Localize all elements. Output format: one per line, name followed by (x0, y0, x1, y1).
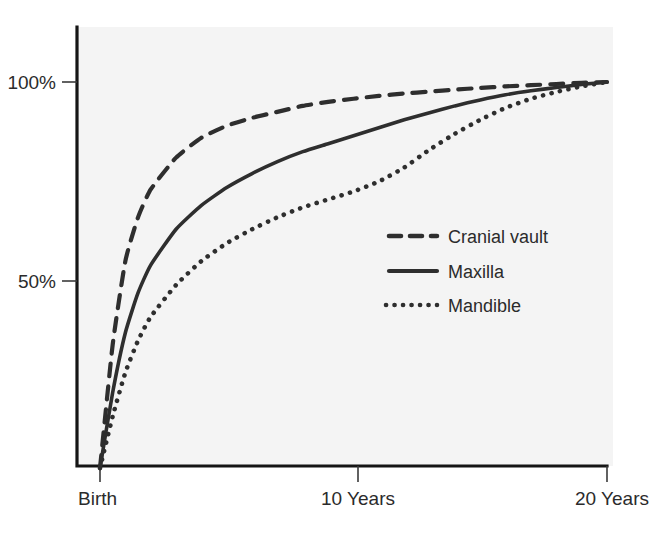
legend-label-maxilla: Maxilla (448, 262, 505, 282)
legend-label-mandible: Mandible (448, 296, 521, 316)
x-axis-label-10-years: 10 Years (321, 488, 395, 509)
chart-container: 100% 50% Birth 10 Years 20 Years Cranial… (0, 0, 654, 536)
y-axis-label-50: 50% (18, 271, 56, 292)
growth-percentage-line-chart: 100% 50% Birth 10 Years 20 Years Cranial… (0, 0, 654, 536)
x-axis-label-birth: Birth (78, 488, 117, 509)
y-axis-label-100: 100% (7, 72, 56, 93)
x-axis-label-20-years: 20 Years (575, 488, 649, 509)
legend-label-cranial-vault: Cranial vault (448, 227, 548, 247)
